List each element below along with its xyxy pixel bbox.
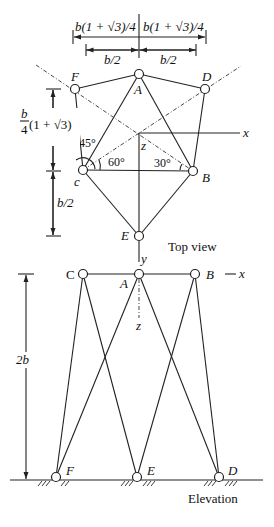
dim-top-left: b(1 + √3)/4 <box>75 19 136 34</box>
label-a: A <box>133 82 142 97</box>
top-view-title: Top view <box>168 239 217 254</box>
angle-30-label: 30° <box>154 156 171 170</box>
node-f <box>71 85 80 94</box>
elevation-view: y x z 2b <box>10 241 263 506</box>
elev-node-d <box>215 473 224 482</box>
elev-node-b <box>191 270 200 279</box>
label-e: E <box>120 228 129 243</box>
node-b <box>189 167 198 176</box>
dim-vert-upper-den: 4 <box>21 122 28 137</box>
y-axis-label: y <box>139 251 147 266</box>
z-axis-label: z <box>140 138 146 153</box>
x-axis-label: x <box>242 125 249 140</box>
label-b: B <box>202 170 210 185</box>
elevation-members <box>56 274 219 477</box>
dim-mid-left: b/2 <box>104 52 121 67</box>
dim-vert-upper-num: b <box>21 106 28 121</box>
elev-node-f <box>52 473 61 482</box>
angle-arc-30 <box>180 164 182 170</box>
elevation-title: Elevation <box>188 491 238 506</box>
z-axis-label-elev: z <box>135 318 141 333</box>
dim-vert-upper-rest: (1 + √3) <box>29 117 72 132</box>
angle-45-label: 45° <box>79 136 96 150</box>
node-a <box>135 70 144 79</box>
elev-label-c: C <box>66 267 75 282</box>
elev-node-c <box>79 270 88 279</box>
left-vertical-dimension: b 4 (1 + √3) b/2 <box>20 89 81 236</box>
elev-label-d: D <box>227 463 238 478</box>
elev-node-e <box>133 473 142 482</box>
dim-top-right: b(1 + √3)/4 <box>143 19 204 34</box>
label-d: D <box>201 69 212 84</box>
x-axis-label-elev: x <box>238 266 245 281</box>
space-truss-diagram: b(1 + √3)/4 b(1 + √3)/4 b/2 b/2 x z <box>0 0 274 527</box>
label-c: c <box>74 174 80 189</box>
node-c <box>79 166 88 175</box>
label-f: F <box>70 69 80 84</box>
angle-arc-60 <box>99 160 100 170</box>
elev-label-b: B <box>206 267 214 282</box>
dim-mid-right: b/2 <box>160 52 177 67</box>
node-e <box>135 232 144 241</box>
elev-label-e: E <box>146 463 155 478</box>
height-dim-label: 2b <box>16 352 30 367</box>
node-d <box>201 85 210 94</box>
top-view: b(1 + √3)/4 b(1 + √3)/4 b/2 b/2 x z <box>20 14 249 254</box>
elev-label-f: F <box>65 463 75 478</box>
top-dimensions: b(1 + √3)/4 b(1 + √3)/4 b/2 b/2 <box>73 14 206 67</box>
angle-60-label: 60° <box>108 155 125 169</box>
elev-label-a: A <box>119 276 128 291</box>
top-view-members <box>75 74 205 236</box>
dim-vert-lower: b/2 <box>57 195 74 210</box>
elev-node-a <box>135 270 144 279</box>
